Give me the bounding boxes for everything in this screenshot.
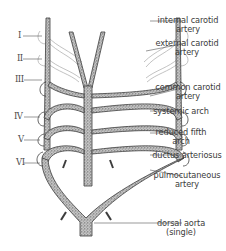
label-pulmocutaneous-artery: pulmocutaneous artery <box>148 171 226 188</box>
label-systemic-arch: systemic arch <box>146 107 216 116</box>
label-common-carotid: common carotid artery <box>150 83 226 100</box>
left-external-carotid <box>69 32 88 88</box>
label-ductus-arteriosus: ductus arteriosus <box>148 151 226 160</box>
arch-III-left <box>48 82 84 98</box>
right-external-carotid <box>88 32 105 88</box>
label-external-carotid: external carotid artery <box>148 39 226 56</box>
arch-numeral-III: III <box>15 75 24 84</box>
arch-numeral-II: II <box>17 54 23 63</box>
label-reduced-fifth-arch: reduced fifth arch <box>146 128 216 145</box>
label-internal-carotid: internal carotid artery <box>150 16 226 33</box>
arch-numeral-V: V <box>18 135 24 144</box>
arch-numeral-VI: VI <box>16 158 25 167</box>
label-dorsal-aorta: dorsal aorta (single) <box>146 219 216 236</box>
arch-numeral-I: I <box>18 31 21 40</box>
central-trunk <box>84 86 92 186</box>
arch-numeral-IV: IV <box>14 112 23 121</box>
